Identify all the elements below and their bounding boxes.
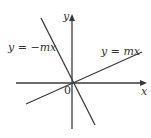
coordinate-plane-figure: y = −mx y = mx y x 0	[0, 0, 151, 138]
negative-slope-label: y = −mx	[8, 42, 56, 53]
x-axis-label: x	[141, 86, 147, 97]
positive-slope-label: y = mx	[101, 46, 140, 57]
origin-label: 0	[64, 85, 71, 96]
axes-and-lines	[0, 0, 151, 138]
y-axis-arrow-icon	[69, 14, 75, 21]
line-positive-slope	[26, 52, 142, 104]
line-negative-slope	[41, 18, 95, 125]
y-axis-label: y	[63, 11, 69, 22]
